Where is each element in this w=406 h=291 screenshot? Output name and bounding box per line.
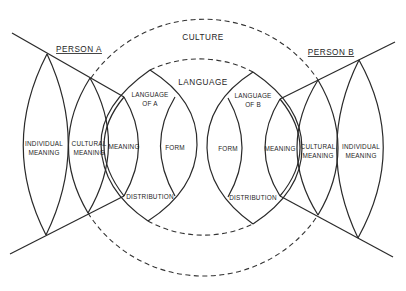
person-b-label: PERSON B	[308, 48, 354, 57]
person-b-language-label-2: OF B	[245, 101, 261, 108]
culture-language-diagram: CULTURE LANGUAGE PERSON A PERSON B INDIV…	[0, 0, 406, 291]
person-a-distribution-label: DISTRIBUTION	[126, 193, 174, 200]
person-b-distribution-label: DISTRIBUTION	[229, 194, 277, 201]
person-a-language-label-1: LANGUAGE	[131, 91, 168, 98]
person-b-meaning-label: MEANING	[264, 145, 295, 152]
person-b-form-label: FORM	[218, 145, 238, 152]
person-b-individual-meaning-label-2: MEANING	[345, 152, 376, 159]
culture-label: CULTURE	[182, 33, 224, 42]
person-b-language-label-1: LANGUAGE	[234, 92, 271, 99]
person-a-meaning-label: MEANING	[108, 143, 139, 150]
person-a-form-label: FORM	[165, 144, 185, 151]
person-a-cultural-meaning-label-1: CULTURAL	[72, 140, 107, 147]
person-b-cultural-meaning-label-2: MEANING	[302, 152, 333, 159]
person-a-individual-meaning-label-2: MEANING	[28, 149, 59, 156]
person-b-individual-meaning-label-1: INDIVIDUAL	[342, 143, 380, 150]
language-label: LANGUAGE	[178, 78, 228, 87]
person-a-label: PERSON A	[56, 45, 102, 54]
person-a-individual-meaning-label-1: INDIVIDUAL	[25, 140, 63, 147]
person-a-cultural-meaning-label-2: MEANING	[73, 149, 104, 156]
person-b-cultural-meaning-label-1: CULTURAL	[301, 143, 336, 150]
person-a-language-label-2: OF A	[142, 100, 158, 107]
